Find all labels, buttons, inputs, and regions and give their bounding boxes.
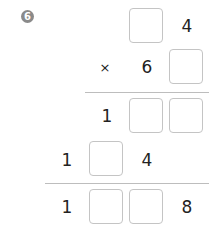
divider-line-1 — [85, 92, 209, 93]
result-thousands-digit: 1 — [57, 197, 77, 217]
answer-box-partial1-tens[interactable] — [129, 98, 163, 133]
multiplier-tens-digit: 6 — [137, 57, 157, 77]
answer-box-multiplicand-tens[interactable] — [129, 8, 163, 43]
multiplicand-ones-digit: 4 — [177, 16, 197, 36]
divider-line-2 — [45, 183, 209, 184]
problem-number-badge: 6 — [21, 10, 34, 23]
answer-box-multiplier-ones[interactable] — [169, 49, 203, 84]
answer-box-partial1-ones[interactable] — [169, 98, 203, 133]
result-ones-digit: 8 — [177, 197, 197, 217]
partial1-hundreds-digit: 1 — [97, 106, 117, 126]
answer-box-result-hundreds[interactable] — [89, 189, 123, 224]
answer-box-partial2-hundreds[interactable] — [89, 141, 123, 176]
answer-box-result-tens[interactable] — [129, 189, 163, 224]
partial2-thousands-digit: 1 — [57, 150, 77, 170]
multiply-operator: × — [95, 58, 115, 78]
partial2-tens-digit: 4 — [137, 150, 157, 170]
